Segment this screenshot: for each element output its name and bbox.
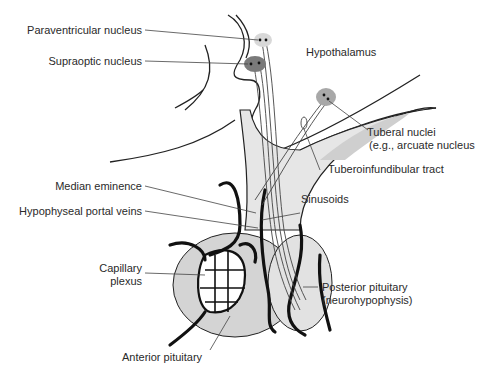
tuberal-nucleus (316, 88, 336, 106)
label-paraventricular-nucleus: Paraventricular nucleus (22, 24, 142, 37)
label-hypophyseal-portal-veins: Hypophyseal portal veins (2, 205, 142, 218)
label-capillary-plexus-2: plexus (62, 275, 142, 288)
label-tuberal-nuclei: Tuberal nuclei (367, 126, 436, 139)
label-median-eminence: Median eminence (22, 180, 142, 193)
label-tuberoinfundibular-tract: Tuberoinfundibular tract (328, 163, 444, 176)
label-hypothalamus: Hypothalamus (306, 46, 376, 59)
label-sinusoids: Sinusoids (301, 193, 349, 206)
label-neurohypophysis: (neurohypophysis) (322, 294, 413, 307)
label-tuberal-nuclei-example: (e.g., arcuate nucleus (369, 139, 475, 152)
label-supraoptic-nucleus: Supraoptic nucleus (22, 55, 142, 68)
label-capillary-plexus-1: Capillary (62, 262, 142, 275)
label-posterior-pituitary: Posterior pituitary (322, 281, 408, 294)
label-anterior-pituitary: Anterior pituitary (122, 351, 202, 364)
